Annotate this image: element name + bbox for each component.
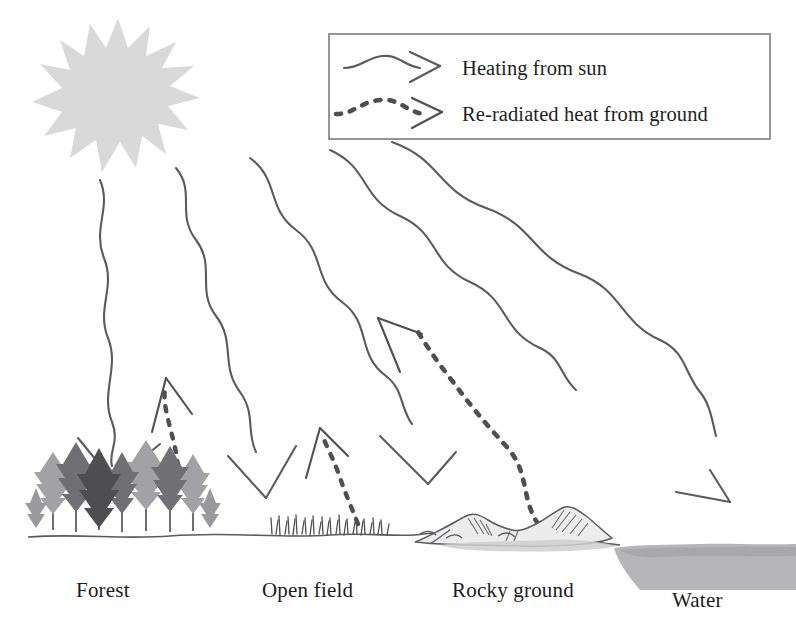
conifer-trees-icon: [25, 440, 221, 532]
reradiated-arrow-rocky-ground: [378, 318, 538, 524]
sun-icon: [32, 18, 200, 172]
diagram-canvas: Heating from sun Re-radiated heat from g…: [0, 0, 796, 635]
sun-ray-open-field: [176, 168, 296, 498]
grass-tufts-icon: [271, 515, 389, 535]
legend-label-reradiated-heat: Re-radiated heat from ground: [462, 103, 708, 126]
sun-ray-rocky-ground: [250, 158, 456, 484]
terrain-label-rocky-ground: Rocky ground: [452, 578, 574, 603]
legend-label-heating-from-sun: Heating from sun: [462, 57, 607, 80]
water-body-icon: [614, 544, 796, 590]
sun-ray-shore: [330, 150, 576, 390]
sun-ray-water: [392, 142, 730, 502]
diagram-page: Heating from sun Re-radiated heat from g…: [0, 0, 796, 635]
reradiated-arrow-open-field: [306, 428, 358, 524]
terrain-label-forest: Forest: [76, 578, 130, 603]
sun-ray-forest: [78, 180, 160, 482]
rocks-icon: [415, 507, 618, 552]
terrain-label-open-field: Open field: [262, 578, 353, 603]
terrain-label-water: Water: [672, 588, 723, 613]
legend: Heating from sun Re-radiated heat from g…: [329, 34, 770, 139]
